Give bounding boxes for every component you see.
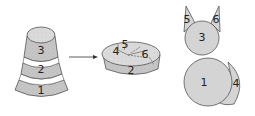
stack-label-1: 1 bbox=[38, 84, 45, 97]
cat-label-4: 4 bbox=[233, 77, 240, 90]
stack-label-2: 2 bbox=[38, 63, 45, 76]
bowl-label-6: 6 bbox=[142, 48, 149, 61]
cat-figure: 1 3 4 5 6 bbox=[184, 6, 240, 106]
cone-top bbox=[27, 27, 55, 43]
stack-label-3: 3 bbox=[38, 44, 45, 57]
stacked-cones: 1 2 3 bbox=[15, 27, 68, 97]
diagram-canvas: 1 2 3 2 4 5 6 1 3 4 5 6 bbox=[0, 0, 255, 116]
cat-label-6: 6 bbox=[213, 13, 220, 26]
cat-label-1: 1 bbox=[201, 76, 208, 89]
cat-body bbox=[184, 58, 232, 106]
bowl-label-5: 5 bbox=[122, 38, 129, 51]
cat-label-3: 3 bbox=[199, 31, 206, 44]
bowl-label-4: 4 bbox=[113, 45, 120, 58]
arrow-right-icon bbox=[69, 55, 98, 59]
bowl-label-2: 2 bbox=[128, 64, 135, 77]
cat-label-5: 5 bbox=[184, 13, 191, 26]
cut-bowl: 2 4 5 6 bbox=[102, 38, 160, 77]
